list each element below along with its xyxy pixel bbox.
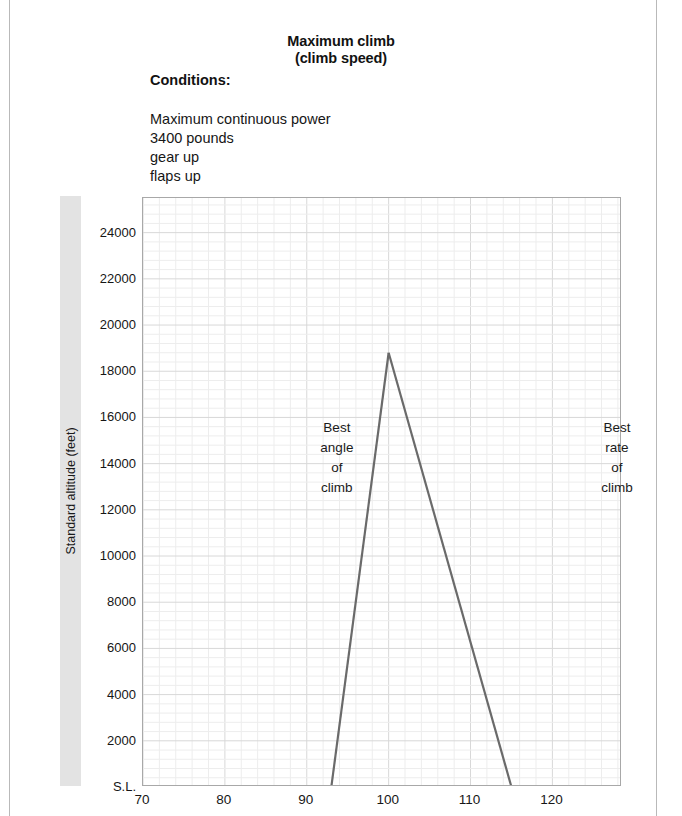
climb-speed-curve: [143, 198, 621, 786]
title-block: Maximum climb (climb speed): [0, 33, 682, 67]
y-axis-tick-label: 24000: [72, 224, 136, 239]
y-axis-tick-label: 4000: [72, 686, 136, 701]
condition-item: 3400 pounds: [150, 129, 331, 148]
y-axis-tick-label: 16000: [72, 409, 136, 424]
y-axis-tick-label: 10000: [72, 548, 136, 563]
condition-item: Maximum continuous power: [150, 110, 331, 129]
conditions-heading: Conditions:: [150, 72, 231, 88]
condition-item: flaps up: [150, 167, 331, 186]
y-axis-tick-label: 18000: [72, 363, 136, 378]
y-axis-tick-label: 22000: [72, 270, 136, 285]
x-axis-tick-label: 100: [358, 792, 418, 807]
x-axis-tick-labels: 708090100110120: [142, 792, 621, 816]
condition-item: gear up: [150, 148, 331, 167]
page-border-right: [656, 0, 657, 816]
y-axis-tick-label: 2000: [72, 732, 136, 747]
plot-area: [142, 197, 621, 786]
plot-wrapper: Best angle of climbBest rate of climb: [142, 197, 621, 786]
x-axis-tick-label: 120: [521, 792, 581, 807]
chart-page: Maximum climb (climb speed) Conditions: …: [0, 0, 682, 816]
page-border-left: [9, 0, 10, 816]
conditions-list: Maximum continuous power 3400 pounds gea…: [150, 110, 331, 186]
chart-title: Maximum climb: [0, 33, 682, 50]
x-axis-tick-label: 110: [440, 792, 500, 807]
plot-annotation: Best angle of climb: [320, 418, 353, 498]
y-axis-tick-label: 12000: [72, 501, 136, 516]
x-axis-tick-label: 70: [112, 792, 172, 807]
y-axis-tick-label: 8000: [72, 594, 136, 609]
x-axis-tick-label: 90: [276, 792, 336, 807]
x-axis-tick-label: 80: [194, 792, 254, 807]
plot-annotation: Best rate of climb: [601, 418, 633, 498]
y-axis-tick-label: 6000: [72, 640, 136, 655]
y-axis-tick-label: 14000: [72, 455, 136, 470]
y-axis-tick-label: 20000: [72, 317, 136, 332]
y-axis-tick-labels: 2400022000200001800016000140001200010000…: [70, 197, 136, 786]
chart-subtitle: (climb speed): [0, 50, 682, 67]
